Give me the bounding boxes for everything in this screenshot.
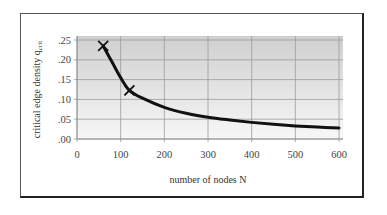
y-tick-label: .25 (58, 35, 71, 46)
x-tick-label: 600 (331, 149, 347, 160)
y-tick-labels: .00.05.10.15.20.25 (58, 35, 71, 145)
x-tick-label: 400 (244, 149, 260, 160)
y-axis-label-main: critical edge density q (31, 50, 42, 138)
y-tick-label: .20 (58, 54, 71, 65)
y-axis-label: critical edge density qcrit (31, 41, 44, 138)
x-tick-labels: 0100200300400500600 (74, 149, 347, 160)
plot-area (77, 36, 343, 139)
line-chart: .00.05.10.15.20.25 0100200300400500600 n… (0, 0, 387, 215)
x-axis-label: number of nodes N (170, 174, 247, 185)
y-tick-label: .05 (58, 114, 71, 125)
x-tick-label: 300 (200, 149, 216, 160)
x-tick-label: 200 (156, 149, 172, 160)
x-tick-label: 500 (287, 149, 303, 160)
x-tick-label: 0 (74, 149, 79, 160)
y-axis-label-subscript: crit (36, 41, 44, 50)
y-tick-label: .15 (58, 74, 71, 85)
y-tick-label: .00 (58, 134, 71, 145)
x-tick-label: 100 (113, 149, 129, 160)
y-tick-label: .10 (58, 94, 71, 105)
